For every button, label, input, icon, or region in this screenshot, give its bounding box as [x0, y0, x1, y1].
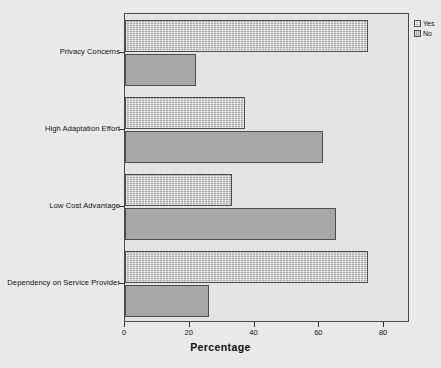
bar-no-3: [125, 285, 209, 317]
bar-yes-2: [125, 174, 232, 206]
x-axis-tick-label-2: 40: [249, 328, 257, 337]
x-axis-tick: [254, 322, 255, 327]
bar-chart: Privacy ConcernsHigh Adaptation EffortLo…: [0, 0, 441, 368]
legend-label-no: No: [423, 30, 432, 37]
y-axis-label-0: Privacy Concerns: [60, 47, 120, 56]
x-axis-tick: [318, 322, 319, 327]
bar-no-1: [125, 131, 323, 163]
x-axis-tick-label-0: 0: [122, 328, 126, 337]
bar-no-0: [125, 54, 196, 86]
bar-yes-1: [125, 97, 245, 129]
y-axis-label-2: Low Cost Advantage: [49, 201, 120, 210]
legend-item-no[interactable]: No: [414, 29, 441, 38]
legend-swatch-yes-icon: [414, 20, 421, 27]
x-axis-tick-label-4: 80: [379, 328, 387, 337]
legend: Yes No: [414, 19, 441, 39]
legend-item-yes[interactable]: Yes: [414, 19, 441, 28]
y-axis-label-3: Dependency on Service Provider: [7, 278, 120, 287]
x-axis-tick: [383, 322, 384, 327]
legend-label-yes: Yes: [423, 20, 434, 27]
x-axis-tick: [124, 322, 125, 327]
bar-yes-0: [125, 20, 368, 52]
x-axis-tick-label-3: 60: [314, 328, 322, 337]
y-axis-label-1: High Adaptation Effort: [45, 124, 120, 133]
x-axis-tick-label-1: 20: [185, 328, 193, 337]
legend-swatch-no-icon: [414, 30, 421, 37]
bar-no-2: [125, 208, 336, 240]
plot-area: [124, 13, 409, 322]
bar-yes-3: [125, 251, 368, 283]
x-axis-tick: [189, 322, 190, 327]
x-axis-title: Percentage: [0, 341, 441, 353]
